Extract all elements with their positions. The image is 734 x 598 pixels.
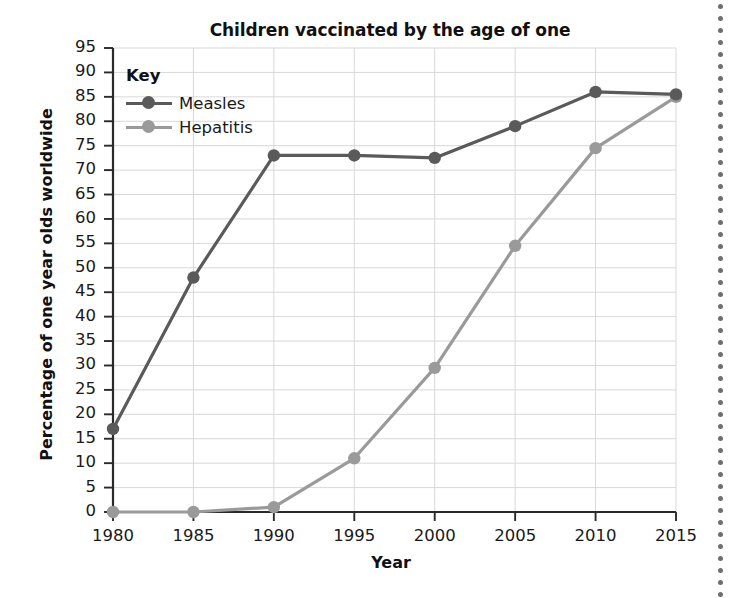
margin-dot: [718, 244, 723, 249]
margin-dot: [718, 136, 723, 141]
chart-figure: Children vaccinated by the age of one Pe…: [0, 0, 734, 598]
data-point-hepatitis: [107, 506, 119, 518]
margin-dot: [718, 172, 723, 177]
margin-dot: [718, 580, 723, 585]
margin-dot: [718, 220, 723, 225]
margin-dot: [718, 4, 723, 9]
y-tick-label: 90: [56, 63, 96, 80]
y-tick-label: 70: [56, 161, 96, 178]
legend-label-hepatitis: Hepatitis: [179, 118, 253, 137]
margin-dot: [718, 448, 723, 453]
margin-dot: [718, 232, 723, 237]
legend-label-measles: Measles: [179, 94, 245, 113]
data-point-measles: [107, 423, 119, 435]
data-point-measles: [187, 271, 199, 283]
margin-dot: [718, 436, 723, 441]
margin-dot: [718, 340, 723, 345]
plot-area: [0, 0, 734, 598]
margin-dot: [718, 160, 723, 165]
y-tick-label: 75: [56, 137, 96, 154]
margin-dot: [718, 88, 723, 93]
margin-dot: [718, 532, 723, 537]
margin-dot: [718, 52, 723, 57]
y-tick-label: 60: [56, 210, 96, 227]
legend-swatch-hepatitis: [126, 120, 172, 134]
data-point-hepatitis: [429, 362, 441, 374]
margin-dot: [718, 388, 723, 393]
y-tick-label: 55: [56, 234, 96, 251]
data-point-hepatitis: [187, 506, 199, 518]
margin-dot: [718, 124, 723, 129]
y-tick-label: 10: [56, 454, 96, 471]
y-tick-label: 30: [56, 356, 96, 373]
data-point-measles: [509, 120, 521, 132]
data-point-hepatitis: [348, 452, 360, 464]
margin-dot: [718, 280, 723, 285]
margin-dot: [718, 556, 723, 561]
chart-legend: Key Measles Hepatitis: [126, 66, 253, 139]
y-tick-label: 35: [56, 332, 96, 349]
margin-dot: [718, 412, 723, 417]
margin-dot: [718, 100, 723, 105]
data-point-measles: [429, 152, 441, 164]
data-point-hepatitis: [589, 142, 601, 154]
margin-dot: [718, 256, 723, 261]
x-tick-label: 2010: [561, 528, 631, 545]
legend-item-measles: Measles: [126, 91, 253, 115]
margin-dot: [718, 64, 723, 69]
margin-dot: [718, 316, 723, 321]
margin-dot: [718, 460, 723, 465]
data-point-measles: [268, 149, 280, 161]
margin-dot: [718, 208, 723, 213]
data-point-measles: [589, 86, 601, 98]
x-tick-label: 1985: [158, 528, 228, 545]
margin-dot: [718, 484, 723, 489]
y-tick-label: 15: [56, 430, 96, 447]
margin-dot: [718, 364, 723, 369]
margin-dot: [718, 592, 723, 597]
margin-dot: [718, 112, 723, 117]
margin-dot: [718, 292, 723, 297]
margin-dot: [718, 196, 723, 201]
y-tick-label: 65: [56, 186, 96, 203]
y-tick-label: 50: [56, 259, 96, 276]
right-margin-dotted-rule: [718, 0, 723, 598]
y-tick-label: 5: [56, 479, 96, 496]
x-tick-label: 2005: [480, 528, 550, 545]
x-tick-label: 1990: [239, 528, 309, 545]
y-tick-label: 80: [56, 112, 96, 129]
y-tick-label: 20: [56, 405, 96, 422]
x-tick-label: 1980: [78, 528, 148, 545]
margin-dot: [718, 304, 723, 309]
margin-dot: [718, 76, 723, 81]
margin-dot: [718, 148, 723, 153]
y-tick-label: 95: [56, 39, 96, 56]
data-point-hepatitis: [268, 501, 280, 513]
margin-dot: [718, 40, 723, 45]
series-line-measles: [113, 92, 676, 429]
y-tick-label: 45: [56, 283, 96, 300]
series-line-hepatitis: [113, 97, 676, 512]
data-point-measles: [670, 88, 682, 100]
margin-dot: [718, 28, 723, 33]
x-tick-label: 2015: [641, 528, 711, 545]
data-point-measles: [348, 149, 360, 161]
margin-dot: [718, 184, 723, 189]
x-tick-label: 1995: [319, 528, 389, 545]
legend-item-hepatitis: Hepatitis: [126, 115, 253, 139]
margin-dot: [718, 400, 723, 405]
y-tick-label: 40: [56, 308, 96, 325]
margin-dot: [718, 496, 723, 501]
legend-swatch-measles: [126, 96, 172, 110]
margin-dot: [718, 472, 723, 477]
margin-dot: [718, 568, 723, 573]
margin-dot: [718, 352, 723, 357]
margin-dot: [718, 508, 723, 513]
margin-dot: [718, 520, 723, 525]
legend-title: Key: [126, 66, 253, 85]
margin-dot: [718, 16, 723, 21]
margin-dot: [718, 328, 723, 333]
y-tick-label: 25: [56, 381, 96, 398]
y-tick-label: 85: [56, 88, 96, 105]
margin-dot: [718, 544, 723, 549]
